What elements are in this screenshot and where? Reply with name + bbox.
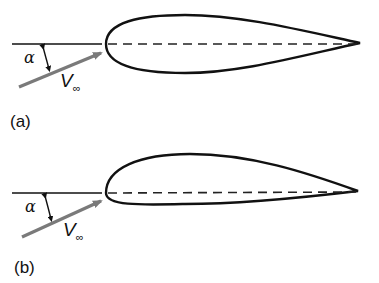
panel-label-b: (b): [14, 258, 35, 278]
airfoil-diagram: [0, 0, 379, 283]
velocity-symbol: V: [60, 70, 73, 91]
velocity-label-a: V∞: [60, 70, 81, 94]
alpha-angle-arc: [45, 196, 51, 219]
alpha-angle-arc: [43, 47, 49, 69]
velocity-symbol: V: [63, 219, 76, 240]
alpha-label-b: α: [25, 197, 36, 216]
chord-line: [108, 192, 356, 193]
cambered-airfoil: [106, 154, 358, 205]
velocity-subscript: ∞: [76, 231, 84, 243]
velocity-label-b: V∞: [63, 219, 84, 243]
alpha-label-a: α: [24, 48, 35, 67]
velocity-subscript: ∞: [73, 82, 81, 94]
panel-label-a: (a): [10, 112, 31, 132]
